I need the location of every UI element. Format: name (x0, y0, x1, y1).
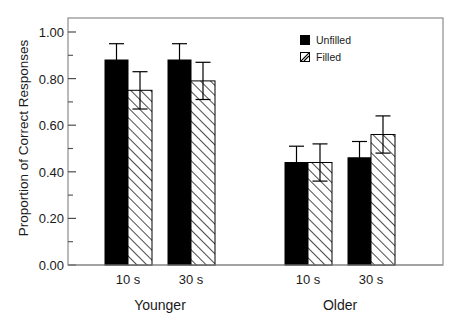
x-tick-label-younger-10s: 10 s (98, 272, 158, 287)
x-tick-label-older-30s: 30 s (341, 272, 401, 287)
group-label-older: Older (280, 297, 400, 313)
bar-younger-30s-filled (191, 81, 215, 265)
hatched-swatch-icon (300, 52, 310, 62)
bar-older-30s-filled (371, 135, 395, 266)
legend-entry-filled: Filled (300, 50, 351, 64)
figure-bar-chart: Proportion of Correct Responses 1.00 0.8… (0, 0, 454, 324)
legend-label-filled: Filled (316, 52, 341, 63)
x-tick-label-younger-30s: 30 s (161, 272, 221, 287)
bar-younger-10s-filled (128, 90, 152, 265)
legend-label-unfilled: Unfilled (316, 35, 351, 46)
solid-black-swatch-icon (300, 35, 310, 45)
x-tick-label-older-10s: 10 s (278, 272, 338, 287)
group-label-younger: Younger (100, 297, 220, 313)
legend-entry-unfilled: Unfilled (300, 33, 351, 47)
bar-younger-10s-unfilled (105, 60, 128, 265)
bar-younger-30s-unfilled (168, 60, 191, 265)
legend: Unfilled Filled (300, 33, 351, 67)
